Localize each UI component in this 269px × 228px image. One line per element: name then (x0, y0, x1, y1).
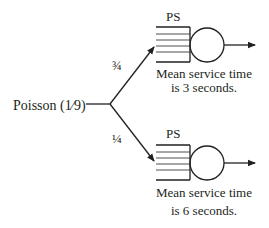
server-caption-line2: is 6 seconds. (171, 203, 237, 218)
server-caption-line2: is 3 seconds. (171, 80, 237, 95)
server-caption-line1: Mean service time (156, 185, 252, 200)
queue-buffer-icon (156, 145, 190, 180)
server-caption-line1: Mean service time (156, 66, 252, 81)
queue-buffer-icon (156, 27, 190, 62)
server-lower: PS Mean service time is 6 seconds. (156, 126, 255, 218)
server-circle-icon (190, 146, 224, 180)
branch-probability-upper: ¾ (112, 58, 122, 73)
branch-arrow-upper (110, 47, 154, 104)
server-discipline-label: PS (166, 9, 180, 24)
server-circle-icon (190, 28, 224, 62)
source-label: Poisson (1⁄9) (13, 98, 86, 114)
server-discipline-label: PS (166, 126, 180, 141)
queueing-diagram: Poisson (1⁄9) ¾ ¼ PS Mean service time i… (0, 0, 269, 228)
branch-probability-lower: ¼ (112, 131, 122, 146)
server-upper: PS Mean service time is 3 seconds. (156, 9, 255, 95)
